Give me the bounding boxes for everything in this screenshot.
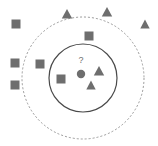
query-point-label: ? [78,55,83,65]
square-marker [85,32,94,41]
square-marker [57,75,66,84]
knn-diagram-figure: ? [0,0,158,146]
square-marker [12,20,21,29]
query-point-dot [77,70,85,78]
diagram-canvas: ? [0,0,158,146]
square-marker [36,60,45,69]
square-marker [11,81,20,90]
square-marker [11,59,20,68]
